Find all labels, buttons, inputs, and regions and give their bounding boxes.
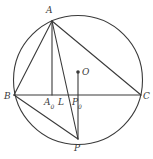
geometry-figure: ABCPOA0LP0 — [0, 0, 153, 159]
segment-AB — [14, 21, 52, 95]
point-label-text: L — [58, 97, 64, 107]
geometry-canvas — [0, 0, 153, 159]
point-label-l: L — [58, 98, 64, 107]
point-marker-o — [76, 70, 80, 74]
point-label-p0: P0 — [72, 98, 82, 109]
point-label-subscript: 0 — [51, 103, 55, 110]
point-label-p: P — [74, 144, 80, 153]
point-label-b: B — [4, 92, 11, 101]
point-label-a: A — [46, 6, 53, 15]
point-label-o: O — [82, 68, 89, 77]
point-label-c: C — [143, 92, 150, 101]
point-label-text: O — [82, 67, 89, 77]
point-label-text: A — [44, 97, 51, 107]
point-label-text: C — [143, 91, 150, 101]
point-label-a0: A0 — [44, 98, 54, 109]
point-label-text: B — [4, 91, 11, 101]
point-label-text: P — [74, 143, 80, 153]
point-label-text: A — [46, 5, 53, 15]
point-label-subscript: 0 — [78, 103, 82, 110]
